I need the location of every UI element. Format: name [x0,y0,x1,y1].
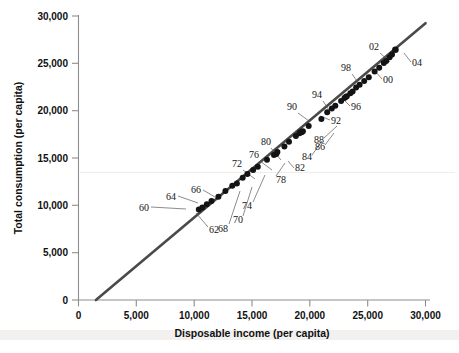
year-label-68: 68 [218,223,228,234]
year-label-82: 82 [295,162,305,173]
y-axis-title: Total consumption (per capita) [12,82,24,235]
year-label-66: 66 [191,184,201,195]
y-tick-label-20000: 20,000 [37,105,68,116]
data-point [209,198,215,204]
x-axis-title: Disposable income (per capita) [174,327,329,339]
y-tick-label-5000: 5,000 [43,247,68,258]
x-tick-label-15000: 15,000 [237,310,268,321]
chart-canvas: 0 5,000 10,000 15,000 20,000 25,000 30,0… [0,0,459,353]
data-point [376,65,382,71]
data-point [255,164,261,170]
year-label-90: 90 [287,101,297,112]
year-label-70: 70 [233,214,243,225]
x-axis-tick-labels: 0 5,000 10,000 15,000 20,000 25,000 30,0… [76,310,442,321]
data-point [357,82,363,88]
year-label-88: 88 [314,134,324,145]
year-label-84: 84 [302,151,312,162]
year-label-96: 96 [351,101,361,112]
year-label-98: 98 [341,62,351,73]
year-label-92: 92 [331,115,341,126]
y-tick-label-15000: 15,000 [37,153,68,164]
data-point [324,109,330,115]
y-tick-label-30000: 30,000 [37,11,68,22]
x-tick-label-30000: 30,000 [410,310,441,321]
y-tick-label-0: 0 [62,295,68,306]
annotation-leader-lines [151,53,411,227]
data-point [318,116,324,122]
year-label-02: 02 [369,41,379,52]
year-label-80: 80 [261,136,271,147]
data-point [366,74,372,80]
y-tick-label-10000: 10,000 [37,200,68,211]
year-label-78: 78 [276,174,286,185]
year-label-76: 76 [249,149,259,160]
data-point [281,143,287,149]
year-label-60: 60 [139,202,149,213]
year-label-94: 94 [312,89,322,100]
scatter-chart-figure: 0 5,000 10,000 15,000 20,000 25,000 30,0… [0,0,459,353]
data-point [392,46,399,53]
data-point [372,69,378,75]
x-tick-label-0: 0 [76,310,82,321]
x-tick-label-25000: 25,000 [352,310,383,321]
data-point [274,149,280,155]
x-tick-label-20000: 20,000 [295,310,326,321]
data-point [244,171,250,177]
data-point [343,94,349,100]
year-label-74: 74 [242,200,252,211]
x-axis-ticks [79,300,426,307]
y-axis-ticks [72,16,79,300]
x-tick-label-5000: 5,000 [124,310,149,321]
data-point [306,123,312,129]
year-label-00: 00 [383,74,393,85]
data-point [332,103,338,109]
year-label-72: 72 [232,158,242,169]
data-point [240,175,246,181]
data-point [234,180,240,186]
year-label-64: 64 [166,191,176,202]
data-point [264,157,270,163]
data-point [299,129,305,135]
y-tick-label-25000: 25,000 [37,58,68,69]
data-point [215,194,221,200]
data-point [361,78,367,84]
year-label-04: 04 [412,57,422,68]
data-point [222,188,228,194]
y-axis-tick-labels: 0 5,000 10,000 15,000 20,000 25,000 30,0… [37,11,68,306]
data-point [286,139,292,145]
x-tick-label-10000: 10,000 [179,310,210,321]
